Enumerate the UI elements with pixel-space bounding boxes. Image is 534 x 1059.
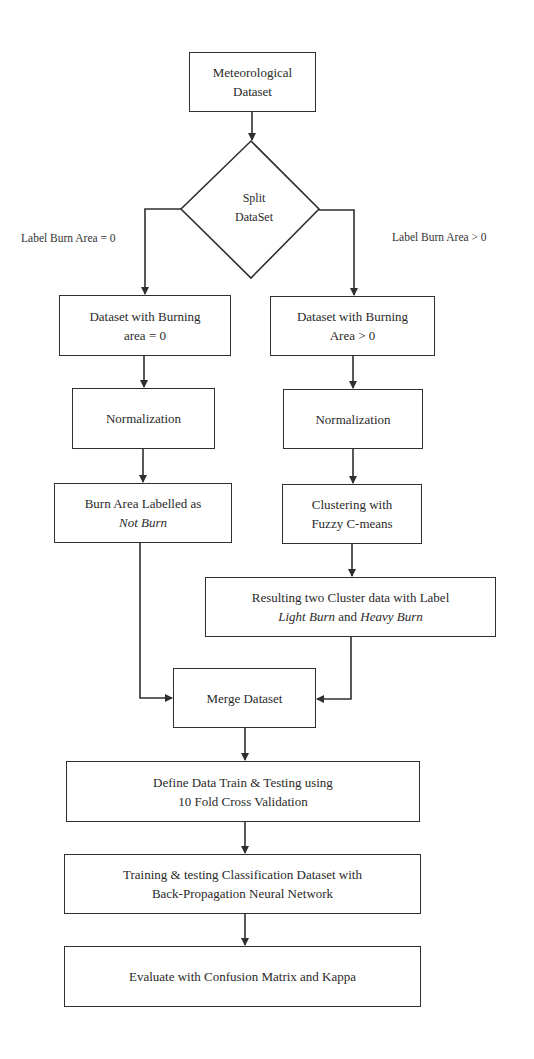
node-text: Not Burn bbox=[119, 513, 167, 532]
node-text: Area > 0 bbox=[330, 326, 376, 345]
node-text: Light Burn and Heavy Burn bbox=[278, 607, 422, 626]
node-text: Back-Propagation Neural Network bbox=[152, 884, 333, 903]
node-text: Merge Dataset bbox=[207, 689, 283, 708]
not-burn-label-node: Burn Area Labelled as Not Burn bbox=[54, 483, 232, 543]
merge-dataset-node: Merge Dataset bbox=[173, 668, 316, 728]
node-text: Dataset with Burning bbox=[89, 307, 200, 326]
node-text: DataSet bbox=[214, 208, 294, 227]
node-text: Define Data Train & Testing using bbox=[153, 773, 333, 792]
node-text: Dataset with Burning bbox=[297, 307, 408, 326]
node-text: Meteorological bbox=[213, 63, 292, 82]
node-text: Resulting two Cluster data with Label bbox=[252, 588, 450, 607]
dataset-burning-zero-node: Dataset with Burning area = 0 bbox=[59, 295, 231, 356]
node-text: 10 Fold Cross Validation bbox=[178, 792, 307, 811]
node-text: area = 0 bbox=[124, 326, 166, 345]
node-text: Clustering with bbox=[312, 495, 393, 514]
node-text: Dataset bbox=[233, 82, 272, 101]
normalization-right-node: Normalization bbox=[283, 389, 423, 449]
training-testing-node: Training & testing Classification Datase… bbox=[64, 854, 421, 914]
edge-label-burn-area-zero: Label Burn Area = 0 bbox=[21, 232, 116, 244]
node-text: Normalization bbox=[315, 410, 390, 429]
node-text: Split bbox=[214, 189, 294, 208]
cluster-result-node: Resulting two Cluster data with Label Li… bbox=[205, 577, 496, 637]
node-text: Fuzzy C-means bbox=[311, 514, 392, 533]
evaluate-node: Evaluate with Confusion Matrix and Kappa bbox=[64, 946, 421, 1007]
edge-label-burn-area-positive: Label Burn Area > 0 bbox=[392, 231, 487, 243]
node-text: Training & testing Classification Datase… bbox=[123, 865, 362, 884]
dataset-burning-positive-node: Dataset with Burning Area > 0 bbox=[270, 296, 435, 356]
normalization-left-node: Normalization bbox=[72, 388, 215, 449]
define-train-test-node: Define Data Train & Testing using 10 Fol… bbox=[66, 761, 420, 822]
fuzzy-cmeans-clustering-node: Clustering with Fuzzy C-means bbox=[282, 484, 422, 544]
node-text: Normalization bbox=[106, 409, 181, 428]
node-text: Burn Area Labelled as bbox=[85, 494, 202, 513]
and-text: and bbox=[335, 609, 360, 624]
meteorological-dataset-node: Meteorological Dataset bbox=[189, 52, 316, 112]
heavy-burn-text: Heavy Burn bbox=[360, 609, 422, 624]
node-text: Evaluate with Confusion Matrix and Kappa bbox=[129, 967, 356, 986]
split-dataset-label: Split DataSet bbox=[214, 189, 294, 227]
light-burn-text: Light Burn bbox=[278, 609, 335, 624]
